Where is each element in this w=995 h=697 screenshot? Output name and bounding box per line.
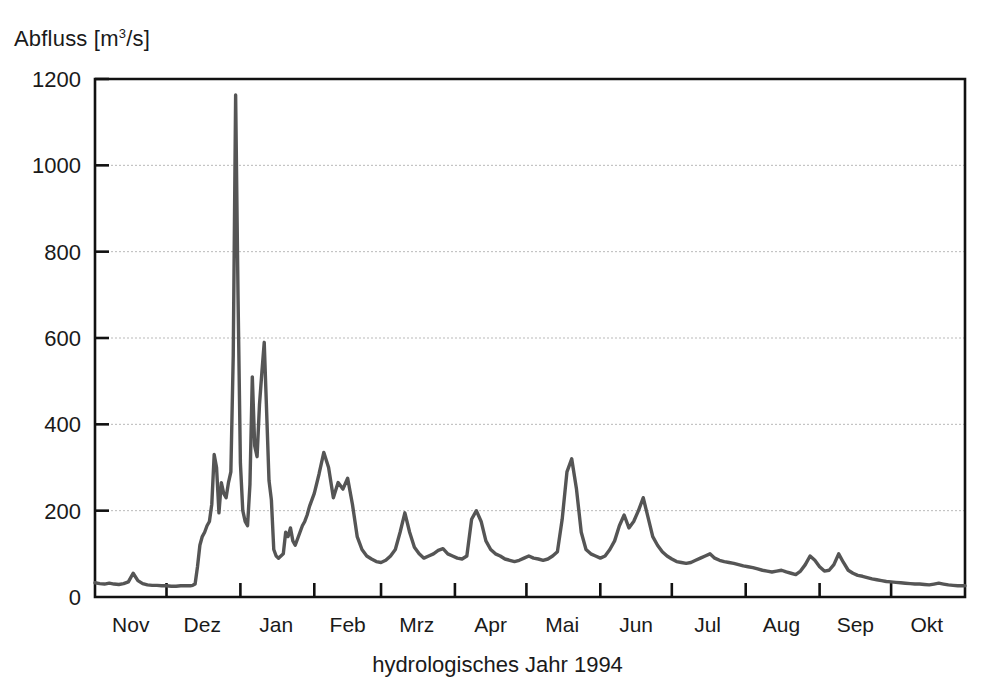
discharge-series-line bbox=[95, 95, 965, 586]
x-tick-label-mrz: Mrz bbox=[399, 613, 434, 636]
y-tick-label: 1000 bbox=[32, 153, 81, 178]
x-tick-label-aug: Aug bbox=[763, 613, 800, 636]
x-tick-label-jan: Jan bbox=[259, 613, 293, 636]
x-tick-label-dez: Dez bbox=[184, 613, 221, 636]
x-tick-label-okt: Okt bbox=[911, 613, 944, 636]
x-tick-label-apr: Apr bbox=[474, 613, 507, 636]
y-tick-label: 200 bbox=[44, 499, 81, 524]
x-tick-labels-group: NovDezJanFebMrzAprMaiJunJulAugSepOkt bbox=[112, 613, 943, 636]
axis-frame bbox=[95, 79, 965, 597]
y-tick-label: 1200 bbox=[32, 67, 81, 92]
hydrograph-plot: 020040060080010001200 NovDezJanFebMrzApr… bbox=[0, 0, 995, 697]
x-ticks-group bbox=[167, 583, 892, 597]
y-tick-label: 600 bbox=[44, 326, 81, 351]
y-tick-label: 400 bbox=[44, 412, 81, 437]
x-axis-label: hydrologisches Jahr 1994 bbox=[0, 652, 995, 678]
x-tick-label-sep: Sep bbox=[837, 613, 874, 636]
x-tick-label-nov: Nov bbox=[112, 613, 150, 636]
x-tick-label-jul: Jul bbox=[694, 613, 721, 636]
y-tick-label: 800 bbox=[44, 240, 81, 265]
x-tick-label-feb: Feb bbox=[330, 613, 366, 636]
x-tick-label-mai: Mai bbox=[545, 613, 579, 636]
y-tick-label: 0 bbox=[69, 585, 81, 610]
chart-figure: Abfluss [m3/s] 020040060080010001200 Nov… bbox=[0, 0, 995, 697]
gridlines-group bbox=[95, 79, 965, 511]
x-tick-label-jun: Jun bbox=[619, 613, 653, 636]
y-ticks-group: 020040060080010001200 bbox=[32, 67, 109, 610]
